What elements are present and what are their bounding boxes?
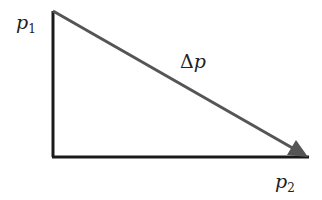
p2-base: p (275, 170, 287, 192)
p2-subscript: 2 (287, 181, 295, 195)
label-delta-p: Δp (180, 52, 206, 71)
delta-symbol: Δ (180, 50, 194, 72)
label-p1: p1 (16, 13, 36, 35)
p1-base: p (16, 11, 28, 33)
delta-variable: p (194, 50, 206, 72)
arrowhead-icon (287, 140, 308, 157)
triangle-diagram (0, 0, 322, 200)
label-p2: p2 (275, 172, 295, 194)
p1-subscript: 1 (28, 22, 36, 36)
hypotenuse-arrow (53, 11, 296, 150)
